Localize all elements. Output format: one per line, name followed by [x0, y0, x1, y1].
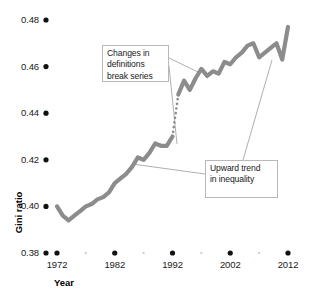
x-tick-label: 1992	[153, 259, 193, 270]
annotation-upward-trend: Upward trend in inequality	[205, 160, 278, 198]
x-tick-dot	[170, 250, 175, 255]
annotation-break-series: Changes in definitions break series	[102, 45, 169, 82]
annotation-line: in inequality	[210, 174, 274, 185]
y-tick-label: 0.42	[5, 154, 39, 165]
x-tick-dot	[285, 250, 290, 255]
x-tick-label: 1972	[37, 259, 77, 270]
y-tick-dot	[43, 17, 48, 22]
series-line	[57, 137, 173, 221]
x-tick-label: 1982	[95, 259, 135, 270]
leader-trend-up	[243, 60, 272, 160]
gini-ratio-chart: 0.48 0.46 0.44 0.42 0.40 0.38 1972 1982 …	[0, 0, 309, 301]
y-axis-tick-marks	[43, 17, 48, 255]
x-minor-tick-dot	[143, 252, 145, 254]
annotation-line: break series	[107, 71, 165, 82]
x-minor-tick-dot	[258, 252, 260, 254]
y-axis-title: Gini ratio	[13, 183, 24, 243]
annotation-line: Upward trend	[210, 163, 274, 174]
x-minor-tick-dot	[200, 252, 202, 254]
x-tick-dot	[228, 250, 233, 255]
annotation-line: definitions	[107, 59, 165, 70]
y-tick-dot	[43, 157, 48, 162]
y-tick-label: 0.44	[5, 107, 39, 118]
x-axis-tick-marks	[54, 250, 290, 255]
y-tick-label: 0.38	[5, 247, 39, 258]
x-tick-label: 2002	[210, 259, 250, 270]
x-tick-dot	[112, 250, 117, 255]
x-minor-tick-dot	[85, 252, 87, 254]
y-tick-label: 0.46	[5, 61, 39, 72]
y-tick-dot	[43, 64, 48, 69]
leader-break-upper	[169, 58, 200, 73]
x-axis-title: Year	[44, 277, 84, 288]
x-tick-dot	[54, 250, 59, 255]
y-tick-dot	[43, 111, 48, 116]
annotation-line: Changes in	[107, 48, 165, 59]
x-tick-label: 2012	[268, 259, 308, 270]
y-tick-label: 0.48	[5, 14, 39, 25]
leader-trend-left	[132, 164, 205, 174]
y-tick-dot	[43, 204, 48, 209]
y-tick-dot	[43, 250, 48, 255]
